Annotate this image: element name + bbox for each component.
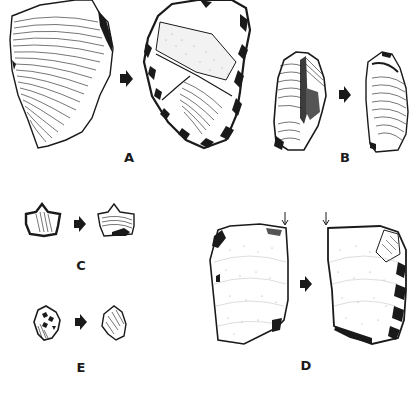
panel-d-label: D [301,358,312,373]
panel-d-after-flake [0,0,417,403]
lithic-figure: A B [0,0,417,403]
